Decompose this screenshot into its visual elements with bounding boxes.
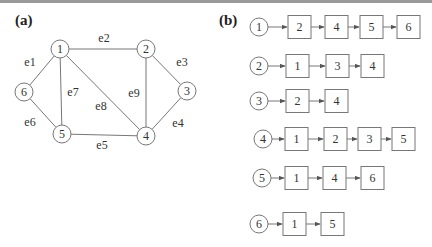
edge-label: e1 bbox=[24, 55, 35, 69]
adjacency-row-4: 41235 bbox=[254, 128, 415, 151]
list-node-value: 1 bbox=[294, 171, 300, 185]
node-label: 5 bbox=[59, 127, 65, 141]
vertex-label: 3 bbox=[256, 94, 262, 108]
list-node-value: 4 bbox=[334, 94, 340, 108]
graph-node-4: 4 bbox=[137, 127, 155, 145]
list-node-value: 4 bbox=[370, 59, 376, 73]
list-node-value: 5 bbox=[330, 217, 336, 231]
graph-nodes: 123456 bbox=[15, 40, 196, 145]
list-node-value: 1 bbox=[292, 217, 298, 231]
list-node-value: 4 bbox=[332, 171, 338, 185]
list-node-value: 1 bbox=[294, 132, 300, 146]
node-label: 4 bbox=[143, 129, 149, 143]
list-node-value: 2 bbox=[295, 94, 301, 108]
edge-label: e3 bbox=[176, 55, 187, 69]
adjacency-list: 124562134324412355146615 bbox=[250, 16, 420, 236]
list-node-value: 1 bbox=[295, 59, 301, 73]
vertex-label: 5 bbox=[259, 171, 265, 185]
list-node-value: 2 bbox=[333, 132, 339, 146]
list-node-value: 3 bbox=[367, 132, 373, 146]
adjacency-row-2: 2134 bbox=[250, 55, 384, 78]
graph-edge-e7 bbox=[60, 58, 62, 125]
node-label: 3 bbox=[184, 84, 190, 98]
adjacency-row-6: 615 bbox=[250, 213, 344, 236]
edge-label: e4 bbox=[172, 116, 183, 130]
edge-label: e9 bbox=[128, 86, 139, 100]
graph-edges: e1e2e3e4e5e6e7e8e9 bbox=[24, 31, 187, 152]
list-node-value: 6 bbox=[370, 171, 376, 185]
edge-label: e2 bbox=[98, 31, 109, 45]
edge-label: e7 bbox=[67, 85, 78, 99]
adjacency-row-3: 324 bbox=[250, 90, 348, 113]
list-node-value: 3 bbox=[335, 59, 341, 73]
edge-label: e8 bbox=[95, 99, 106, 113]
graph-node-3: 3 bbox=[178, 82, 196, 100]
list-node-value: 2 bbox=[297, 20, 303, 34]
graph-edge-e5 bbox=[71, 134, 137, 136]
diagram-canvas: e1e2e3e4e5e6e7e8e9 123456 12456213432441… bbox=[0, 0, 432, 247]
list-node-value: 6 bbox=[406, 20, 412, 34]
edge-label: e6 bbox=[24, 115, 35, 129]
vertex-label: 2 bbox=[256, 59, 262, 73]
adjacency-row-1: 12456 bbox=[250, 16, 420, 39]
vertex-label: 6 bbox=[256, 217, 262, 231]
node-label: 6 bbox=[21, 85, 27, 99]
node-label: 2 bbox=[143, 42, 149, 56]
graph-node-2: 2 bbox=[137, 40, 155, 58]
list-node-value: 4 bbox=[334, 20, 340, 34]
graph-node-5: 5 bbox=[53, 125, 71, 143]
edge-label: e5 bbox=[96, 138, 107, 152]
vertex-label: 1 bbox=[256, 20, 262, 34]
node-label: 1 bbox=[57, 42, 63, 56]
list-node-value: 5 bbox=[369, 20, 375, 34]
adjacency-row-5: 5146 bbox=[253, 167, 384, 190]
vertex-label: 4 bbox=[260, 132, 266, 146]
graph-node-1: 1 bbox=[51, 40, 69, 58]
list-node-value: 5 bbox=[401, 132, 407, 146]
graph-node-6: 6 bbox=[15, 83, 33, 101]
